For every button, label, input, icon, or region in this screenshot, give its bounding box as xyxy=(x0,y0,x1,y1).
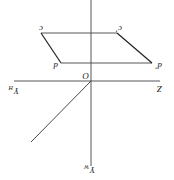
edge-c-d xyxy=(41,33,61,63)
label-d: d xyxy=(53,61,58,71)
label-origin: O xyxy=(82,71,89,81)
label-d-prime: d' xyxy=(155,61,163,71)
label-z-axis: Z xyxy=(156,84,162,94)
svg-text:H: H xyxy=(8,85,14,91)
projection-diagram: c c' d d' O Z Y H Y W xyxy=(0,0,174,180)
diagonal-45-line xyxy=(31,81,91,142)
label-y-h: Y H xyxy=(8,85,19,96)
svg-text:W: W xyxy=(83,164,89,170)
edge-cprime-dprime xyxy=(117,33,152,63)
label-c-prime: c' xyxy=(115,24,122,34)
label-c: c xyxy=(39,24,43,34)
label-y-w: Y W xyxy=(83,164,95,175)
